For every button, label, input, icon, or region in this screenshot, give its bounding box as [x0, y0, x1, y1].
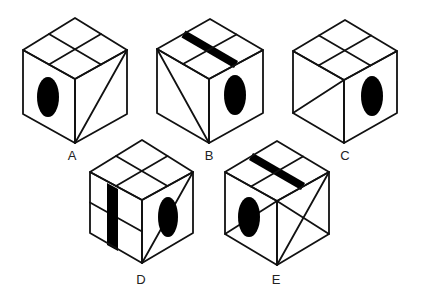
cube-c — [293, 20, 397, 143]
oval-dot — [158, 197, 178, 237]
left-black-bar — [107, 183, 118, 251]
cube-d — [90, 140, 193, 263]
cube-e — [225, 141, 329, 265]
oval-dot — [37, 77, 59, 117]
oval-dot — [238, 197, 260, 237]
cube-puzzle-diagram: A B C D E — [0, 0, 421, 308]
oval-dot — [361, 76, 383, 116]
label-d: D — [136, 273, 145, 286]
oval-dot — [224, 75, 246, 115]
label-b: B — [205, 149, 214, 162]
label-c: C — [340, 149, 349, 162]
cube-a — [23, 18, 127, 143]
cube-b — [157, 19, 263, 143]
label-a: A — [68, 149, 77, 162]
label-e: E — [272, 273, 281, 286]
